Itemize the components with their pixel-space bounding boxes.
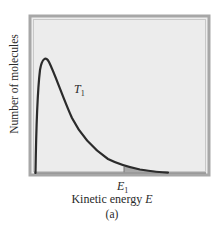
y-axis-label: Number of molecules bbox=[8, 24, 22, 144]
figure-caption: (a) bbox=[0, 208, 224, 220]
x-axis-label-text: Kinetic energy bbox=[71, 192, 145, 206]
curve-label-sub: 1 bbox=[81, 89, 85, 98]
x-axis-label: Kinetic energy E bbox=[0, 192, 224, 207]
chart-frame bbox=[30, 16, 209, 175]
curve-label-t1: T1 bbox=[74, 82, 85, 98]
curve-label-main: T bbox=[74, 82, 81, 96]
x-axis-variable: E bbox=[145, 192, 152, 206]
